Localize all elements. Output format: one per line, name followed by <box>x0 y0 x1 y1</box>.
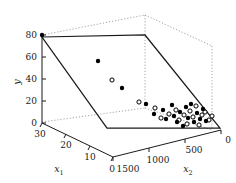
x1-axis-title: x1 <box>54 163 64 177</box>
data-point-observed <box>40 33 44 37</box>
y-tick-label-20: 20 <box>26 96 38 106</box>
x2-axis-line <box>113 130 221 157</box>
x1-axis-line <box>42 123 113 157</box>
data-point-observed <box>120 86 124 90</box>
data-point-observed <box>170 103 174 107</box>
scatter-plot-figure: 80 60 40 20 0 y 30 20 10 0 x1 1500 1000 … <box>0 0 236 183</box>
data-point-fitted <box>110 78 114 82</box>
x2-tick-label-1500: 1500 <box>117 164 140 174</box>
data-point-fitted <box>197 123 201 127</box>
data-point-fitted <box>182 113 186 117</box>
data-point-observed <box>184 105 188 109</box>
data-point-fitted <box>167 112 171 116</box>
y-axis-ticks <box>42 35 46 123</box>
data-point-observed <box>144 102 148 106</box>
x2-tick-label-1000: 1000 <box>147 155 170 165</box>
x2-axis-title: x2 <box>183 163 193 177</box>
data-point-fitted <box>159 116 163 120</box>
data-point-observed <box>189 102 193 106</box>
box-edge-top-left <box>42 15 145 35</box>
x1-axis-title-sub: 1 <box>60 169 64 177</box>
data-point-fitted <box>188 109 192 113</box>
data-point-observed <box>195 111 199 115</box>
data-point-observed <box>186 116 190 120</box>
x1-tick-label-20: 20 <box>60 140 72 150</box>
data-point-observed <box>201 107 205 111</box>
y-tick-label-80: 80 <box>26 30 38 40</box>
x2-tick-label-0: 0 <box>225 135 231 145</box>
data-point-fitted <box>210 114 214 118</box>
x1-tick-20 <box>64 134 66 138</box>
x1-tick-10 <box>88 146 90 150</box>
y-tick-label-40: 40 <box>26 74 38 84</box>
data-point-observed <box>96 59 100 63</box>
fitted-plane-outline <box>42 35 220 128</box>
plot-canvas: 80 60 40 20 0 y 30 20 10 0 x1 1500 1000 … <box>0 0 236 183</box>
y-tick-label-60: 60 <box>26 52 38 62</box>
data-point-observed <box>204 119 208 123</box>
data-point-observed <box>152 112 156 116</box>
x1-tick-label-30: 30 <box>34 129 46 139</box>
data-point-observed <box>161 108 165 112</box>
y-axis-title: y <box>11 79 22 86</box>
data-point-fitted <box>137 100 141 104</box>
box-edge-top-right <box>145 15 212 46</box>
data-point-fitted <box>191 115 195 119</box>
data-point-observed <box>181 124 185 128</box>
data-point-observed <box>192 120 196 124</box>
data-point-observed <box>175 120 179 124</box>
y-tick-label-0: 0 <box>31 118 37 128</box>
data-point-fitted <box>153 106 157 110</box>
data-point-observed <box>198 117 202 121</box>
data-point-observed <box>178 110 182 114</box>
fitted-plane <box>42 35 220 128</box>
x1-tick-label-10: 10 <box>84 152 96 162</box>
x2-tick-label-500: 500 <box>185 145 202 155</box>
data-point-fitted <box>185 122 189 126</box>
data-point-fitted <box>194 104 198 108</box>
x1-axis-ticks <box>40 123 113 161</box>
data-point-observed <box>172 114 176 118</box>
x1-tick-label-0: 0 <box>109 164 115 174</box>
x2-axis-title-sub: 2 <box>189 169 193 177</box>
data-point-fitted <box>174 108 178 112</box>
data-point-observed <box>164 117 168 121</box>
x1-tick-30 <box>40 123 42 127</box>
